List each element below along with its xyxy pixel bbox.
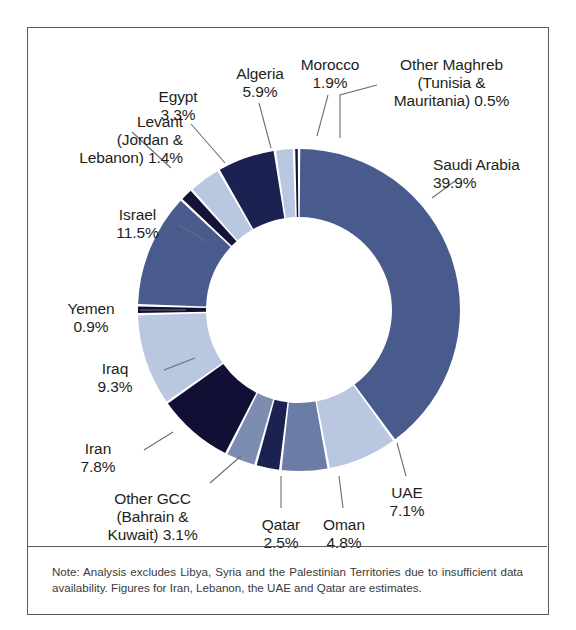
donut-slice-saudi-arabia[interactable]	[300, 149, 460, 439]
leader-line-morocco	[317, 95, 328, 136]
label-iran: Iran 7.8%	[52, 440, 144, 476]
donut-slices	[138, 149, 460, 471]
label-uae: UAE 7.1%	[362, 484, 452, 520]
label-saudi-arabia: Saudi Arabia 39.9%	[433, 156, 548, 192]
figure-panel: Levant (Jordan & Lebanon) 1.4% Egypt 3.3…	[27, 27, 549, 615]
donut-chart: Levant (Jordan & Lebanon) 1.4% Egypt 3.3…	[28, 28, 547, 557]
footnote-text: Note: Analysis excludes Libya, Syria and…	[52, 564, 523, 596]
leader-line-other-gcc	[210, 456, 241, 483]
label-israel: Israel 11.5%	[90, 206, 185, 242]
leader-line-algeria	[259, 103, 271, 148]
leader-line-egypt	[191, 124, 225, 163]
label-iraq: Iraq 9.3%	[68, 360, 162, 396]
leader-line-oman	[339, 476, 343, 508]
label-yemen: Yemen 0.9%	[42, 300, 140, 336]
footnote: Note: Analysis excludes Libya, Syria and…	[28, 546, 547, 614]
label-other-maghreb: Other Maghreb (Tunisia & Mauritania) 0.5…	[364, 56, 539, 110]
leader-line-iran	[144, 432, 173, 450]
label-other-gcc: Other GCC (Bahrain & Kuwait) 3.1%	[90, 490, 215, 544]
leader-line-uae	[397, 443, 406, 476]
donut-slice-other-maghreb[interactable]	[295, 149, 298, 217]
